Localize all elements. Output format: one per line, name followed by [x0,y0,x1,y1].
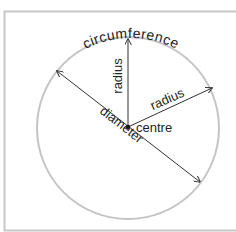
radius-vertical-label: radius [110,58,125,94]
centre-label: centre [136,120,172,135]
circle-diagram: circumference radius radius diameter cen… [0,0,236,232]
circumference-label: circumference [80,25,182,52]
